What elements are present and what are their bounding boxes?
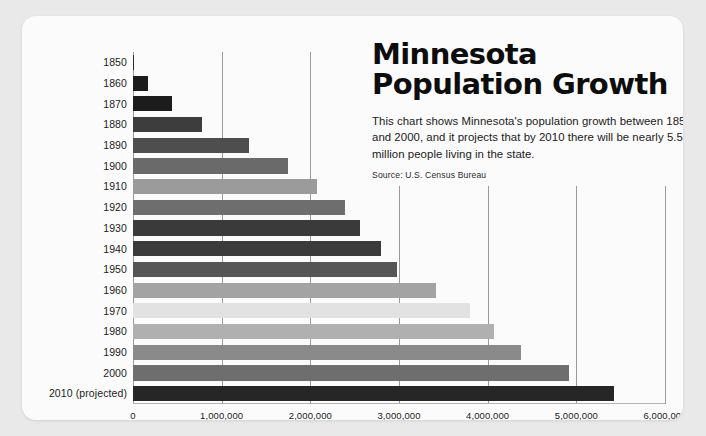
- bar-row: [133, 218, 665, 238]
- chart-description: This chart shows Minnesota's population …: [372, 113, 683, 162]
- bar-1940: [133, 241, 381, 256]
- bar-1900: [133, 158, 288, 173]
- bar-row: [133, 363, 665, 383]
- chart-source: Source: U.S. Census Bureau: [372, 170, 683, 180]
- y-tick-1880: 1880: [27, 118, 127, 130]
- bar-1950: [133, 262, 397, 277]
- bar-2010: [133, 386, 614, 401]
- y-tick-1930: 1930: [27, 222, 127, 234]
- y-tick-1940: 1940: [27, 243, 127, 255]
- screenshot-root: 1850186018701880189019001910192019301940…: [0, 0, 706, 436]
- y-tick-1910: 1910: [27, 180, 127, 192]
- bar-row: [133, 280, 665, 300]
- bar-1920: [133, 200, 345, 215]
- bar-row: [133, 321, 665, 341]
- bar-row: [133, 301, 665, 321]
- x-axis-line: [133, 403, 665, 404]
- x-tick-5000000: 5,000,000: [555, 410, 598, 420]
- bar-1930: [133, 220, 360, 235]
- bar-row: [133, 259, 665, 279]
- y-tick-2010: 2010 (projected): [27, 387, 127, 399]
- x-tick-3000000: 3,000,000: [377, 410, 420, 420]
- bar-1970: [133, 303, 470, 318]
- bar-2000: [133, 365, 569, 380]
- x-tick-0: 0: [130, 410, 135, 420]
- bar-1890: [133, 138, 249, 153]
- title-block: Minnesota Population Growth This chart s…: [372, 40, 683, 180]
- bar-row: [133, 383, 665, 403]
- y-tick-1960: 1960: [27, 284, 127, 296]
- gridline-6000000: [665, 186, 666, 404]
- chart-title: Minnesota Population Growth: [372, 40, 683, 100]
- bar-1910: [133, 179, 317, 194]
- y-tick-1890: 1890: [27, 139, 127, 151]
- bar-1850: [133, 55, 134, 70]
- y-tick-1850: 1850: [27, 56, 127, 68]
- y-tick-1860: 1860: [27, 77, 127, 89]
- bar-row: [133, 239, 665, 259]
- bar-1990: [133, 345, 521, 360]
- x-tick-6000000: 6,000,000: [643, 410, 683, 420]
- y-tick-1920: 1920: [27, 201, 127, 213]
- x-tick-1000000: 1,000,000: [200, 410, 243, 420]
- bar-1960: [133, 283, 436, 298]
- y-tick-1870: 1870: [27, 98, 127, 110]
- y-tick-1980: 1980: [27, 325, 127, 337]
- y-tick-1990: 1990: [27, 346, 127, 358]
- chart-card: 1850186018701880189019001910192019301940…: [22, 16, 683, 420]
- bar-row: [133, 342, 665, 362]
- bar-1880: [133, 117, 202, 132]
- bar-1860: [133, 76, 148, 91]
- y-tick-1970: 1970: [27, 305, 127, 317]
- bar-row: [133, 197, 665, 217]
- x-tick-2000000: 2,000,000: [289, 410, 332, 420]
- y-tick-1900: 1900: [27, 160, 127, 172]
- bar-1980: [133, 324, 494, 339]
- x-tick-4000000: 4,000,000: [466, 410, 509, 420]
- y-tick-1950: 1950: [27, 263, 127, 275]
- y-tick-2000: 2000: [27, 367, 127, 379]
- bar-1870: [133, 96, 172, 111]
